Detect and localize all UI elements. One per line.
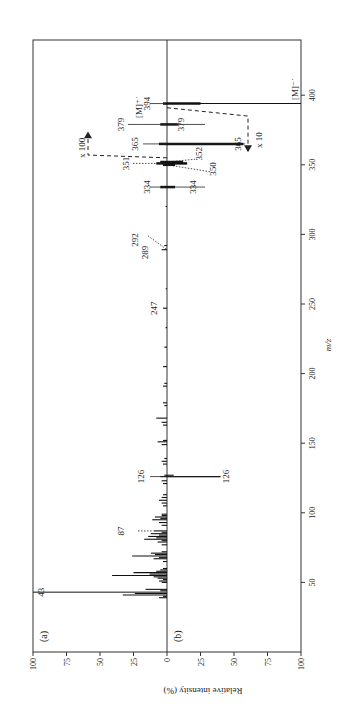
svg-text:379: 379 [176,117,186,131]
svg-text:350: 350 [308,159,317,171]
y-axis-title: Relative intensity (%) [164,686,243,696]
svg-text:334: 334 [142,180,152,194]
svg-text:300: 300 [308,228,317,240]
svg-text:365: 365 [233,137,243,151]
panel-a-label: (a) [38,631,50,642]
peak-annotations: 4387126126247289292334334351352350365365… [36,96,252,596]
spectrum-a-peaks [33,104,167,598]
svg-text:150: 150 [308,437,317,449]
svg-text:100: 100 [297,658,306,670]
svg-text:75: 75 [264,658,273,666]
svg-text:365: 365 [130,137,140,151]
svg-text:400: 400 [308,89,317,101]
svg-text:334: 334 [188,180,198,194]
spectrum-b-peaks [167,104,301,477]
svg-text:25: 25 [130,658,139,666]
mass-spectrum-chart: 4387126126247289292334334351352350365365… [0,0,352,722]
svg-text:351: 351 [121,157,131,171]
svg-text:43: 43 [36,587,46,597]
svg-text:25: 25 [197,658,206,666]
svg-text:200: 200 [308,368,317,380]
figure-caption-edge [336,40,346,660]
axes: 1007550250255075100501001502002503003504… [29,89,317,670]
panel-b-label: (b) [172,630,184,642]
svg-text:75: 75 [63,658,72,666]
plot-frame [33,40,301,652]
magnification-a-label: x 100 [77,137,87,158]
svg-text:50: 50 [308,578,317,586]
svg-text:352: 352 [194,147,204,161]
svg-text:379: 379 [116,117,126,131]
svg-text:250: 250 [308,298,317,310]
svg-text:126: 126 [136,469,146,483]
svg-text:50: 50 [96,658,105,666]
svg-text:100: 100 [308,507,317,519]
svg-text:87: 87 [116,526,126,536]
svg-text:0: 0 [163,658,172,662]
svg-text:126: 126 [221,469,231,483]
svg-text:50: 50 [230,658,239,666]
svg-text:100: 100 [29,658,38,670]
molecular-ion-pos-label: [M]⁺˙ [134,96,144,118]
svg-text:289: 289 [140,245,150,259]
svg-text:350: 350 [208,162,218,176]
x-axis-title: m/z [323,338,333,351]
svg-text:247: 247 [149,301,159,315]
molecular-ion-neg-label: [M]⁻˙ [290,78,300,100]
magnification-b-label: x 10 [254,132,264,148]
svg-text:292: 292 [130,233,140,247]
